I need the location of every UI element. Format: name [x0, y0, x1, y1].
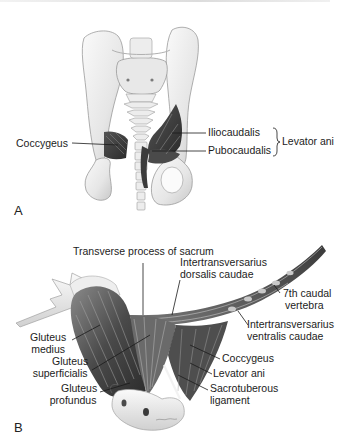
label-levator-ani: Levator ani — [213, 368, 265, 380]
label-line: Gluteus — [30, 332, 66, 344]
label-line: Gluteus — [32, 356, 88, 368]
pelvis-illustration — [0, 0, 347, 215]
label-coccygeus: Coccygeus — [222, 353, 274, 365]
label-line: 7th caudal — [283, 288, 331, 300]
label-gluteus-superficialis: Gluteus superficialis — [32, 356, 88, 379]
label-gluteus-profundus: Gluteus profundus — [49, 383, 97, 406]
label-line: ventralis caudae — [247, 331, 334, 343]
label-coccygeus: Coccygeus — [16, 138, 68, 150]
label-line: medius — [30, 344, 66, 356]
panel-b-lateral-view: Transverse process of sacrum Intertransv… — [0, 215, 347, 438]
label-line: Intertransversarius — [180, 257, 267, 269]
label-pubocaudalis: Pubocaudalis — [208, 145, 271, 157]
label-line: Gluteus — [49, 383, 97, 395]
panel-a-pelvis-dorsal-view: Coccygeus Iliocaudalis Pubocaudalis Leva… — [0, 0, 347, 215]
label-line: vertebra — [283, 300, 331, 312]
label-line: Intertransversarius — [247, 319, 334, 331]
label-intertransversarius-dorsalis-caudae: Intertransversarius dorsalis caudae — [180, 257, 267, 280]
label-line: profundus — [49, 395, 97, 407]
label-sacrotuberous-ligament: Sacrotuberous ligament — [210, 383, 278, 406]
label-iliocaudalis: Iliocaudalis — [208, 127, 260, 139]
label-7th-caudal-vertebra: 7th caudal vertebra — [283, 288, 331, 311]
label-levator-ani-group: Levator ani — [282, 136, 334, 148]
label-gluteus-medius: Gluteus medius — [30, 332, 66, 355]
label-line: ligament — [210, 395, 278, 407]
label-intertransversarius-ventralis-caudae: Intertransversarius ventralis caudae — [247, 319, 334, 342]
label-line: Sacrotuberous — [210, 383, 278, 395]
label-line: dorsalis caudae — [180, 269, 267, 281]
panel-letter-b: B — [14, 420, 23, 435]
label-line: superficialis — [32, 368, 88, 380]
